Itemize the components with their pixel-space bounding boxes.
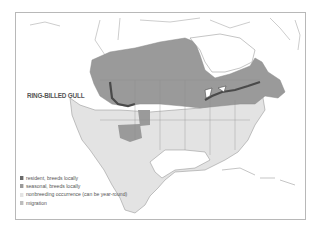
map-title: RING-BILLED GULL xyxy=(27,91,84,100)
legend-label: migration xyxy=(26,199,47,207)
legend-item-nonbreeding: nonbreeding occurrence (can be year-roun… xyxy=(20,190,127,198)
legend-item-migration: migration xyxy=(20,199,127,207)
swatch-resident xyxy=(20,176,23,180)
swatch-nonbreeding xyxy=(20,193,23,197)
legend-label: seasonal, breeds locally xyxy=(26,182,80,190)
swatch-migration xyxy=(20,201,23,205)
swatch-seasonal xyxy=(20,184,23,188)
legend-label: nonbreeding occurrence (can be year-roun… xyxy=(26,190,127,198)
map-legend: resident, breeds locally seasonal, breed… xyxy=(20,174,146,207)
legend-item-resident: resident, breeds locally xyxy=(20,174,127,182)
legend-item-seasonal: seasonal, breeds locally xyxy=(20,182,127,190)
seasonal-range xyxy=(90,38,285,108)
legend-label: resident, breeds locally xyxy=(26,174,78,182)
